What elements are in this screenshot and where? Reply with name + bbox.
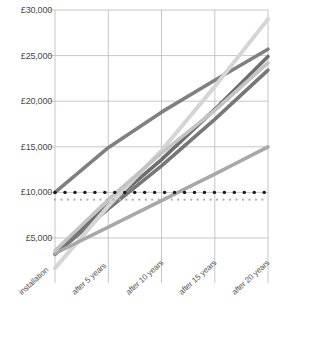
x-axis-tick-labels: installationafter 5 yearsafter 10 yearsa… — [0, 0, 313, 337]
x-axis-label-3: after 15 years — [177, 258, 218, 296]
x-axis-label-2: after 10 years — [124, 258, 165, 296]
chart-root: £30,000£25,000£20,000£15,000£10,000£5,00… — [0, 0, 313, 337]
x-axis-label-0: installation — [17, 266, 50, 297]
x-axis-label-4: after 20 years — [230, 258, 271, 296]
x-axis-label-1: after 5 years — [70, 261, 108, 297]
